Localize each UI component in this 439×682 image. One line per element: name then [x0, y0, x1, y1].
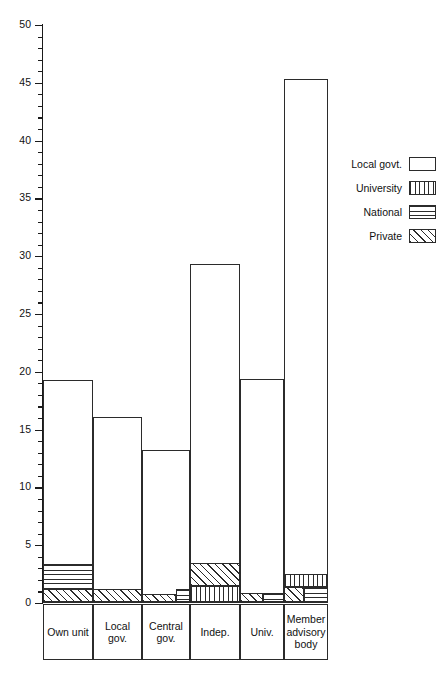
category-label-text: Local gov.	[94, 620, 141, 645]
legend-swatch-plain	[409, 157, 436, 171]
category-label-text: Indep.	[199, 626, 230, 639]
segment-private	[284, 587, 305, 602]
segment-private	[43, 589, 94, 602]
segment-university	[284, 574, 329, 587]
y-axis-tick-label: 30	[5, 250, 31, 260]
segment-national	[43, 564, 94, 589]
legend-label: University	[356, 182, 402, 194]
bar	[284, 79, 328, 603]
segment-private	[93, 589, 143, 602]
y-axis-tick-label: 50	[5, 19, 31, 29]
legend-label: National	[363, 206, 402, 218]
y-axis-major-tick	[35, 545, 43, 546]
y-axis-tick-label: 35	[5, 192, 31, 202]
y-axis-major-tick	[35, 256, 43, 257]
bars-group	[43, 25, 328, 603]
category-label-3: Central gov.	[142, 604, 190, 660]
category-label-2: Local gov.	[93, 604, 142, 660]
y-axis-tick-label: 45	[5, 77, 31, 87]
legend-swatch-private	[409, 229, 436, 243]
y-axis-major-tick	[35, 487, 43, 488]
y-axis-major-tick	[35, 314, 43, 315]
bar-chart: 05101520253035404550 Own unitLocal gov.C…	[0, 0, 439, 682]
bar	[93, 417, 142, 603]
category-label-text: Own unit	[46, 626, 89, 639]
category-label-4: Indep.	[190, 604, 240, 660]
legend-swatch-university	[409, 181, 436, 195]
y-axis-major-tick	[35, 83, 43, 84]
legend-item-3: National	[330, 200, 436, 224]
y-axis-tick-label: 15	[5, 424, 31, 434]
category-label-5: Univ.	[240, 604, 284, 660]
y-axis-major-tick	[35, 430, 43, 431]
legend-item-4: Private	[330, 224, 436, 248]
bar	[142, 450, 190, 603]
category-label-row: Own unitLocal gov.Central gov.Indep.Univ…	[43, 604, 328, 660]
y-axis-major-tick	[35, 603, 43, 604]
legend-swatch-national	[409, 205, 436, 219]
y-axis-major-tick	[35, 141, 43, 142]
y-axis-tick-label: 0	[5, 597, 31, 607]
y-axis-tick-label: 5	[5, 539, 31, 549]
bar	[190, 264, 240, 603]
y-axis-major-tick	[35, 25, 43, 26]
y-axis-tick-label: 10	[5, 481, 31, 491]
category-label-text: Univ.	[249, 626, 274, 639]
bar	[43, 380, 93, 603]
legend-label: Local govt.	[351, 158, 402, 170]
y-axis-tick-label: 20	[5, 366, 31, 376]
segment-private	[240, 593, 263, 602]
category-label-6: Member advisory body	[284, 604, 328, 660]
plot-area	[43, 25, 328, 603]
y-axis-tick-label: 40	[5, 135, 31, 145]
category-label-text: Member advisory body	[285, 613, 327, 651]
segment-private	[190, 563, 241, 586]
legend-item-1: Local govt.	[330, 152, 436, 176]
segment-national	[176, 589, 190, 602]
y-axis-major-tick	[35, 372, 43, 373]
segment-national	[304, 587, 328, 602]
legend-item-2: University	[330, 176, 436, 200]
category-label-1: Own unit	[43, 604, 93, 660]
y-axis-tick-label: 25	[5, 308, 31, 318]
segment-national	[263, 593, 284, 602]
segment-university	[190, 586, 241, 602]
legend-label: Private	[369, 230, 402, 242]
category-label-text: Central gov.	[143, 620, 189, 645]
y-axis-major-tick	[35, 198, 43, 199]
chart-legend: Local govt.UniversityNationalPrivate	[330, 152, 436, 248]
bar	[240, 379, 284, 603]
segment-private	[142, 594, 176, 602]
